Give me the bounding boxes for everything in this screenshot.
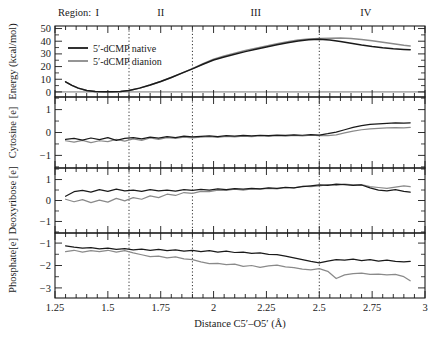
y-tick-label: −3: [40, 283, 51, 294]
y-tick-label: −2: [40, 260, 51, 271]
multi-panel-chart: Region:IIIIIIIV01020304050−101−101−3−2−1…: [0, 0, 439, 341]
x-tick-label: 1.25: [46, 302, 64, 313]
series-line-dianion: [66, 184, 411, 202]
x-tick-label: 3: [422, 302, 427, 313]
figure-container: Region:IIIIIIIV01020304050−101−101−3−2−1…: [0, 0, 439, 341]
y-tick-label: −1: [40, 238, 51, 249]
x-tick-label: 2: [211, 302, 216, 313]
x-tick-label: 2.5: [313, 302, 326, 313]
y-tick-label: 1: [46, 104, 51, 115]
y-axis-title-energy: Energy (kcal/mol): [7, 23, 19, 100]
x-tick-label: 1.5: [101, 302, 114, 313]
y-tick-label: −1: [40, 150, 51, 161]
y-tick-label: 50: [41, 23, 52, 34]
y-tick-label: 40: [41, 36, 52, 47]
x-tick-label: 2.75: [363, 302, 381, 313]
y-axis-title-deoxyribose: Deoxyribose [e]: [7, 167, 18, 235]
y-tick-label: 0: [46, 87, 51, 98]
series-line-dianion: [66, 250, 411, 280]
x-tick-label: 2.25: [257, 302, 275, 313]
series-line-native: [66, 246, 411, 263]
y-axis-title-phosphate: Phosphate[e]: [7, 238, 18, 293]
panel-2: −101: [40, 97, 425, 168]
legend: 5′-dCMP native5′-dCMP dianion: [68, 43, 162, 67]
region-label-I: I: [96, 7, 100, 18]
legend-label: 5′-dCMP dianion: [93, 56, 162, 67]
y-tick-label: −1: [40, 216, 51, 227]
legend-label: 5′-dCMP native: [93, 43, 157, 54]
series-line-native: [66, 184, 411, 196]
y-tick-label: 10: [41, 74, 52, 85]
region-label-II: II: [157, 7, 164, 18]
y-tick-label: 1: [46, 174, 51, 185]
panel-4: −3−2−1: [40, 233, 425, 298]
x-axis-title: Distance C5′–O5′ (Å): [194, 318, 286, 330]
region-label-III: III: [251, 7, 262, 18]
y-tick-label: 20: [41, 61, 52, 72]
y-axis-title-cytosine: Cytosine [e]: [7, 107, 18, 159]
series-line-native: [66, 123, 411, 140]
panel-3: −101: [40, 168, 425, 233]
region-label-IV: IV: [360, 7, 371, 18]
y-tick-label: 30: [41, 48, 52, 59]
region-prefix-label: Region:: [58, 7, 91, 18]
y-tick-label: 0: [46, 127, 51, 138]
x-tick-label: 1.75: [152, 302, 170, 313]
y-tick-label: 0: [46, 195, 51, 206]
